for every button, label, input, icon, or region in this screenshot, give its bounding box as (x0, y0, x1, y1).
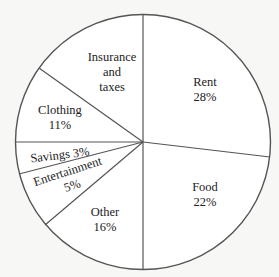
label-line: 22% (180, 195, 230, 210)
label-line: 28% (180, 90, 230, 105)
label-line: 11% (30, 118, 90, 133)
label-line: Insurance (77, 50, 147, 65)
label-line: Rent (180, 75, 230, 90)
label-line: 16% (80, 220, 130, 235)
slice-label-other: Other 16% (80, 205, 130, 235)
slice-label-rent: Rent 28% (180, 75, 230, 105)
slice-label-food: Food 22% (180, 180, 230, 210)
pie-chart (0, 0, 279, 277)
label-line: Other (80, 205, 130, 220)
label-line: Food (180, 180, 230, 195)
slice-label-clothing: Clothing 11% (30, 103, 90, 133)
label-line: Clothing (30, 103, 90, 118)
label-line: and (77, 65, 147, 80)
slice-label-insurance: Insurance and taxes (77, 50, 147, 95)
label-line: taxes (77, 80, 147, 95)
